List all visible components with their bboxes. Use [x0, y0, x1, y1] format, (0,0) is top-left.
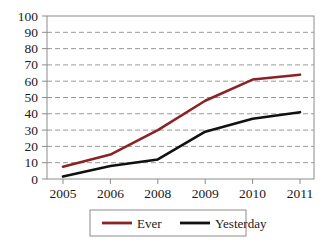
legend-label-yesterday: Yesterday — [215, 216, 267, 231]
y-tick-label: 40 — [25, 106, 39, 121]
y-tick-label: 70 — [25, 57, 39, 72]
legend-label-ever: Ever — [137, 216, 162, 231]
y-tick-label: 30 — [25, 123, 39, 138]
x-axis-tick-labels: 200520062008200920102011 — [50, 186, 314, 201]
x-axis-ticks — [63, 179, 300, 184]
y-tick-label: 0 — [31, 172, 38, 187]
line-chart: 0102030405060708090100 20052006200820092… — [0, 0, 336, 246]
y-axis-ticks — [42, 16, 47, 179]
y-tick-label: 80 — [25, 41, 39, 56]
y-tick-label: 60 — [25, 74, 39, 89]
x-tick-label: 2006 — [97, 186, 124, 201]
chart-legend: EverYesterday — [90, 210, 267, 236]
x-tick-label: 2010 — [239, 186, 266, 201]
y-tick-label: 10 — [25, 155, 39, 170]
y-tick-label: 50 — [25, 90, 39, 105]
y-axis-tick-labels: 0102030405060708090100 — [18, 9, 39, 187]
x-tick-label: 2005 — [50, 186, 77, 201]
x-tick-label: 2008 — [144, 186, 171, 201]
y-tick-label: 90 — [25, 25, 39, 40]
x-tick-label: 2011 — [287, 186, 314, 201]
x-tick-label: 2009 — [192, 186, 219, 201]
y-tick-label: 100 — [18, 9, 39, 24]
chart-figure: 0102030405060708090100 20052006200820092… — [0, 0, 336, 246]
y-tick-label: 20 — [25, 139, 39, 154]
